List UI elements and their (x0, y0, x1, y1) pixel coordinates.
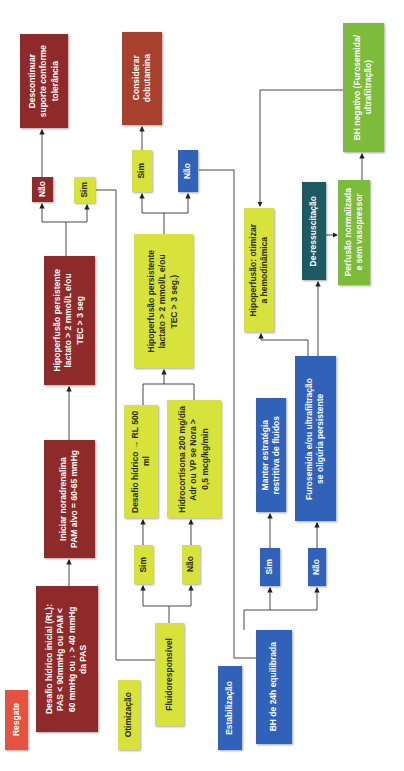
node-text: Desafio hídrico → RL 500 ml (130, 405, 153, 518)
node-text: Perfusão normalizada e sem vasopressor (343, 188, 366, 276)
node-sim-otimizacao-2: Sim (132, 150, 152, 192)
node-bh-24h-equilibrada: BH de 24h equilibrada (256, 630, 292, 744)
node-text: Sim (79, 182, 90, 198)
node-text: BH de 24h equilibrada (268, 642, 279, 731)
phase-label-estabilizacao: Estabilização (218, 666, 242, 750)
node-text: BH negativo (Furosemida/ ultrafiltração) (352, 35, 375, 140)
node-furosemida-ultrafiltracao: Furosemida e/ou ultrafiltração se oligúr… (295, 356, 336, 521)
phase-label-resgate: Resgate (5, 690, 28, 750)
node-text: Não (311, 559, 322, 575)
phase-label-text: Estabilização (224, 681, 235, 735)
node-text: Sim (264, 559, 275, 575)
node-text: Não (185, 556, 196, 572)
node-text: Hipoperfusão: otimizar a hemodinâmica (248, 224, 271, 317)
node-text: Desafio hídrico inicial (RL): PAS < 90mm… (44, 604, 90, 714)
node-bh-negativo: BH negativo (Furosemida/ ultrafiltração) (343, 23, 384, 152)
node-text: Sim (136, 163, 147, 179)
node-nao-resgate: Não (32, 177, 53, 202)
node-perfusao-normalizada: Perfusão normalizada e sem vasopressor (338, 180, 370, 285)
node-nao-otimizacao-2: Não (178, 150, 198, 192)
node-text: Iniciar noradrenalina PAM alvo = 60-65 m… (58, 450, 81, 548)
phase-label-otimizacao: Otimização (118, 680, 140, 750)
node-nao-estabilizacao: Não (308, 548, 326, 586)
node-nao-otimizacao: Não (182, 545, 200, 584)
phase-label-de-ressuscitacao: De-ressuscitação (302, 182, 326, 280)
node-text: Não (37, 181, 48, 197)
node-sim-resgate: Sim (74, 177, 95, 203)
phase-label-text: De-ressuscitação (308, 196, 319, 266)
node-iniciar-noradrenalina: Iniciar noradrenalina PAM alvo = 60-65 m… (44, 440, 95, 558)
node-hipoperfusao-persistente-otimizacao: Hipoperfusão persistente lactato > 2 mmo… (134, 234, 193, 368)
node-fluidoresponsivel: Fluidoresponsível (155, 623, 184, 726)
node-desafio-hidrico-inicial: Desafio hídrico inicial (RL): PAS < 90mm… (36, 586, 98, 732)
node-text: Considerar dobutamina (131, 54, 154, 102)
node-manter-estrategia-restritiva: Manter estratégia restritiva de fluidos (256, 398, 286, 512)
phase-label-text: Resgate (11, 703, 22, 736)
node-text: Fluidoresponsível (164, 638, 175, 711)
node-hidrocortisona: Hidrocortisona 200 mg/dia Adr ou VP se N… (167, 400, 221, 518)
node-text: Hipoperfusão persistente lactato > 2 mmo… (52, 269, 86, 372)
node-text: Manter estratégia restritiva de fluidos (260, 416, 283, 494)
node-hipoperfusao-persistente-resgate: Hipoperfusão persistente lactato > 2 mmo… (44, 256, 95, 385)
node-text: Hidrocortisona 200 mg/dia Adr ou VP se N… (177, 406, 211, 513)
node-sim-estabilizacao: Sim (260, 548, 280, 586)
node-hipoperfusao-otimizar-hemodinamica: Hipoperfusão: otimizar a hemodinâmica (244, 208, 274, 332)
node-text: Não (182, 163, 193, 179)
node-text: Hipoperfusão persistente lactato > 2 mmo… (146, 250, 180, 353)
node-sim-otimizacao: Sim (134, 545, 153, 584)
node-descontinuar-suporte: Descontinuar suporte conforme tolerância (20, 34, 68, 128)
node-text: Descontinuar suporte conforme tolerância (27, 45, 61, 117)
phase-label-text: Otimização (123, 692, 134, 737)
node-text: Furosemida e/ou ultrafiltração se oligúr… (304, 378, 327, 500)
node-considerar-dobutamina: Considerar dobutamina (122, 32, 162, 125)
node-desafio-hidrico-rl500: Desafio hídrico → RL 500 ml (124, 405, 158, 518)
node-text: Sim (138, 557, 149, 573)
